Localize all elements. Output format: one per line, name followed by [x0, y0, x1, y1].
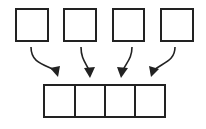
- source-box-3: [113, 9, 144, 41]
- arrow-4: [154, 47, 175, 70]
- source-box-2: [64, 9, 96, 41]
- source-boxes: [16, 9, 193, 41]
- diagram-svg: [0, 0, 206, 129]
- arrow-1: [31, 47, 55, 70]
- arrow-3: [123, 47, 132, 70]
- arrowhead-2-icon: [84, 67, 95, 78]
- arrowheads: [50, 66, 159, 78]
- diagram-canvas: [0, 0, 206, 129]
- source-box-1: [16, 9, 48, 41]
- arrow-2: [81, 47, 89, 70]
- source-box-4: [161, 9, 193, 41]
- target-array: [44, 85, 165, 117]
- arrows: [31, 47, 175, 70]
- arrowhead-3-icon: [117, 67, 128, 78]
